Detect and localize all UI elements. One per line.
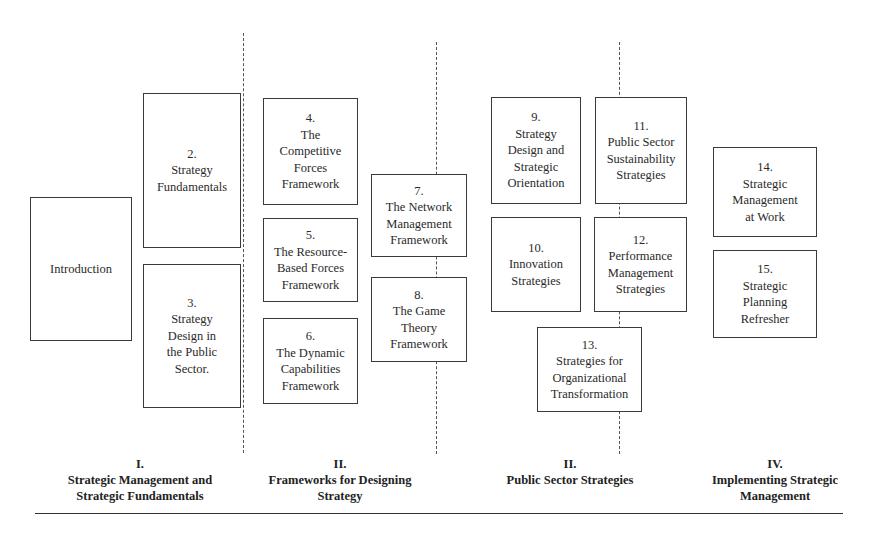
box-label: Design in (168, 328, 216, 345)
box-sustainability-strategies: 11. Public Sector Sustainability Strateg… (595, 97, 687, 204)
box-label: Based Forces (277, 260, 344, 277)
section-title: Strategic Fundamentals (40, 488, 240, 504)
section-label-2: II. Frameworks for Designing Strategy (250, 456, 430, 504)
box-label: The (301, 127, 320, 144)
section-title: Management (690, 488, 860, 504)
box-number: 14. (757, 159, 773, 176)
section-title: Public Sector Strategies (480, 472, 660, 488)
box-number: 12. (633, 232, 649, 249)
box-label: Strategy (171, 162, 213, 179)
section-label-3: II. Public Sector Strategies (480, 456, 660, 488)
box-strategy-design-public-sector: 3. Strategy Design in the Public Sector. (143, 264, 241, 408)
box-label: Innovation (509, 256, 563, 273)
section-title: Strategic Management and (40, 472, 240, 488)
box-label: Sector. (175, 361, 209, 378)
box-innovation-strategies: 10. Innovation Strategies (491, 217, 581, 312)
box-label: Organizational (552, 370, 626, 387)
box-competitive-forces: 4. The Competitive Forces Framework (263, 98, 358, 205)
box-label: Transformation (551, 386, 628, 403)
box-label: Public Sector (607, 134, 674, 151)
box-label: Strategies (511, 273, 560, 290)
box-label: Forces (294, 160, 327, 177)
box-label: Framework (282, 277, 340, 294)
section-numeral: I. (40, 456, 240, 472)
box-number: 13. (582, 337, 598, 354)
box-number: 4. (306, 110, 315, 127)
box-label: Framework (282, 378, 340, 395)
box-label: Strategy (171, 311, 213, 328)
box-label: Framework (282, 176, 340, 193)
box-label: Strategies (616, 281, 665, 298)
section-label-1: I. Strategic Management and Strategic Fu… (40, 456, 240, 504)
box-strategy-design-orientation: 9. Strategy Design and Strategic Orienta… (491, 97, 581, 204)
box-label: Strategic (743, 278, 787, 295)
section-title: Implementing Strategic (690, 472, 860, 488)
box-label: Introduction (50, 261, 112, 278)
box-number: 15. (757, 261, 773, 278)
box-label: Management (608, 265, 673, 282)
box-strategic-management-at-work: 14. Strategic Management at Work (713, 147, 817, 237)
box-label: Strategies (616, 167, 665, 184)
box-label: Planning (743, 294, 787, 311)
box-label: Performance (609, 248, 673, 265)
box-dynamic-capabilities: 6. The Dynamic Capabilities Framework (263, 318, 358, 404)
box-strategy-fundamentals: 2. Strategy Fundamentals (143, 93, 241, 248)
box-number: 10. (528, 240, 544, 257)
box-label: The Resource- (274, 244, 347, 261)
box-label: Framework (390, 336, 448, 353)
section-divider-1 (243, 33, 244, 453)
section-title: Frameworks for Designing (250, 472, 430, 488)
box-label: Management (732, 192, 797, 209)
box-label: Management (386, 216, 451, 233)
box-label: at Work (745, 209, 784, 226)
box-number: 3. (187, 295, 196, 312)
box-label: Design and (508, 142, 565, 159)
box-game-theory: 8. The Game Theory Framework (371, 277, 467, 362)
section-numeral: II. (250, 456, 430, 472)
box-label: Sustainability (607, 151, 676, 168)
box-number: 6. (306, 328, 315, 345)
box-resource-based-forces: 5. The Resource- Based Forces Framework (263, 218, 358, 302)
section-label-4: IV. Implementing Strategic Management (690, 456, 860, 504)
box-label: Refresher (741, 311, 790, 328)
box-label: Orientation (508, 175, 565, 192)
box-label: Strategies for (556, 353, 623, 370)
box-label: Fundamentals (157, 179, 227, 196)
box-strategic-planning-refresher: 15. Strategic Planning Refresher (713, 250, 817, 338)
box-label: The Game (393, 303, 445, 320)
box-number: 9. (531, 109, 540, 126)
section-numeral: IV. (690, 456, 860, 472)
box-number: 7. (414, 183, 423, 200)
box-network-management: 7. The Network Management Framework (371, 174, 467, 257)
box-label: Strategic (743, 176, 787, 193)
box-label: The Network (386, 199, 452, 216)
box-organizational-transformation: 13. Strategies for Organizational Transf… (537, 327, 642, 412)
box-number: 5. (306, 227, 315, 244)
box-number: 11. (633, 118, 648, 135)
section-title: Strategy (250, 488, 430, 504)
box-label: Framework (390, 232, 448, 249)
box-number: 8. (414, 287, 423, 304)
box-number: 2. (187, 146, 196, 163)
box-label: The Dynamic (276, 345, 344, 362)
section-numeral: II. (480, 456, 660, 472)
box-introduction: Introduction (30, 197, 132, 341)
box-label: Capabilities (281, 361, 341, 378)
box-label: Strategy (515, 126, 557, 143)
box-label: Theory (401, 320, 437, 337)
bottom-rule (35, 513, 843, 514)
box-performance-management: 12. Performance Management Strategies (594, 217, 687, 312)
box-label: Competitive (280, 143, 342, 160)
box-label: the Public (167, 344, 217, 361)
box-label: Strategic (514, 159, 558, 176)
